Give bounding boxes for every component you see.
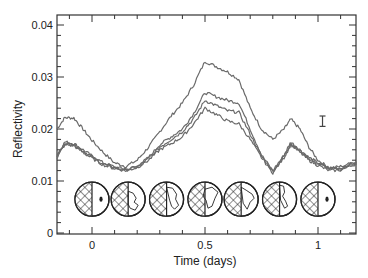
y-tick-label: 0.02 — [32, 123, 53, 135]
earth-globe-icon — [111, 182, 145, 216]
earth-globe-icon — [188, 182, 222, 216]
x-tick-label: 0 — [89, 239, 95, 251]
earth-phase-icons — [75, 182, 335, 216]
y-tick-label: 0.01 — [32, 175, 53, 187]
y-tick-label: 0.04 — [32, 19, 53, 31]
series-line-2 — [57, 93, 356, 171]
series-line-1 — [57, 62, 356, 169]
reflectivity-chart: 00.010.020.030.04 00.51 Time (days) Refl… — [0, 0, 368, 278]
earth-globe-icon — [263, 182, 297, 216]
error-bar-icon — [320, 116, 326, 126]
x-tick-label: 0.5 — [197, 239, 212, 251]
y-tick-label: 0 — [47, 227, 53, 239]
y-axis-label: Reflectivity — [11, 100, 25, 158]
earth-globe-icon — [150, 182, 184, 216]
earth-globe-icon — [75, 182, 109, 216]
x-axis-label: Time (days) — [174, 254, 237, 268]
earth-globe-icon — [301, 182, 335, 216]
x-tick-label: 1 — [315, 239, 321, 251]
earth-globe-icon — [224, 182, 258, 216]
data-series — [57, 62, 356, 174]
series-line-4 — [57, 107, 356, 174]
y-tick-label: 0.03 — [32, 71, 53, 83]
